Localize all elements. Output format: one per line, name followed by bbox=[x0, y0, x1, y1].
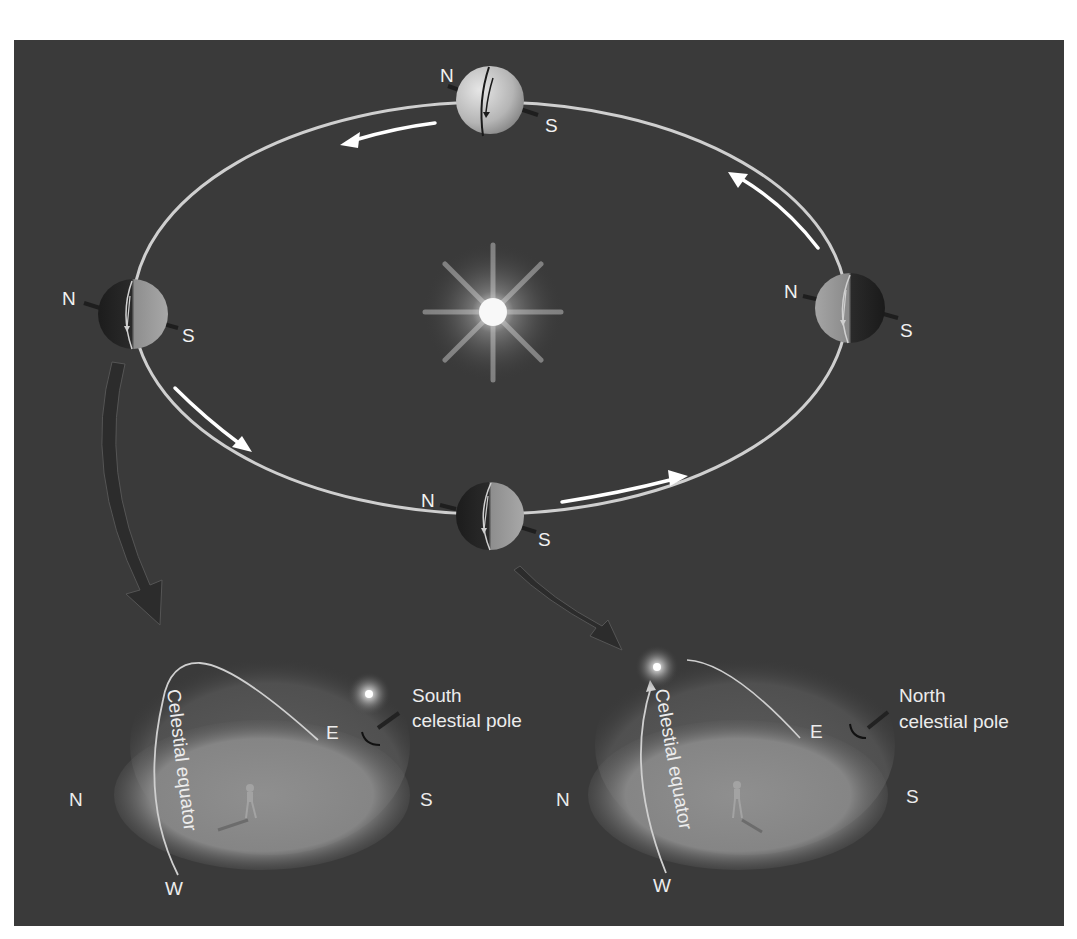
earth-top: N S bbox=[440, 65, 558, 136]
earth-left: N S bbox=[62, 279, 195, 349]
earth-right: N S bbox=[784, 273, 913, 343]
pole-label: North bbox=[899, 685, 945, 706]
pole-label: celestial pole bbox=[412, 710, 522, 731]
sun-icon bbox=[423, 242, 563, 382]
pole-label: South bbox=[412, 685, 462, 706]
direction-north: N bbox=[69, 789, 83, 810]
label-north: N bbox=[62, 288, 76, 309]
direction-south: S bbox=[906, 786, 919, 807]
direction-west: W bbox=[653, 875, 671, 896]
direction-west: W bbox=[165, 878, 183, 899]
pole-label: celestial pole bbox=[899, 711, 1009, 732]
view-arrow-left bbox=[102, 362, 162, 625]
label-south: S bbox=[545, 115, 558, 136]
sky-dome-left: Celestial equator South celestial pole E… bbox=[69, 635, 522, 899]
direction-east: E bbox=[326, 722, 339, 743]
label-north: N bbox=[440, 65, 454, 86]
label-south: S bbox=[900, 320, 913, 341]
orbit-diagram: N S N S N S N S Celesti bbox=[0, 0, 1077, 939]
direction-south: S bbox=[420, 789, 433, 810]
earth-bottom: N S bbox=[421, 482, 551, 550]
label-north: N bbox=[421, 490, 435, 511]
direction-north: N bbox=[556, 789, 570, 810]
sky-dome-right: Celestial equator North celestial pole E… bbox=[556, 635, 1009, 896]
star-icon bbox=[635, 645, 679, 689]
view-arrow-right bbox=[514, 566, 622, 650]
label-north: N bbox=[784, 281, 798, 302]
label-south: S bbox=[538, 529, 551, 550]
star-icon bbox=[347, 672, 391, 716]
arrow-top bbox=[355, 123, 435, 140]
direction-east: E bbox=[810, 721, 823, 742]
label-south: S bbox=[182, 325, 195, 346]
